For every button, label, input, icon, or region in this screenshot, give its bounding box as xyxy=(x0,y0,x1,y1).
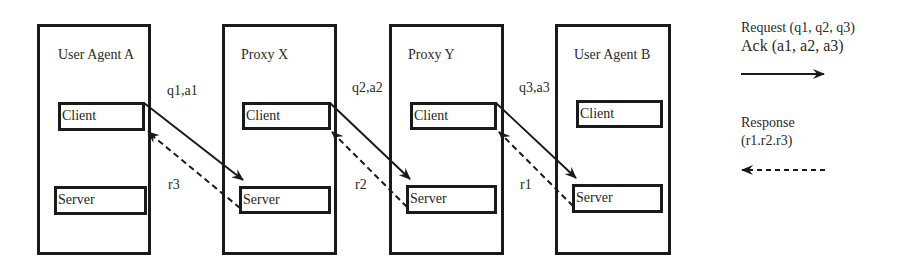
request-label-link-3: q3,a3 xyxy=(519,80,550,96)
entity-title: User Agent A xyxy=(58,47,148,63)
sip-proxy-diagram: User Agent A Client Server Proxy X Clien… xyxy=(0,0,906,260)
server-box-proxy-x: Server xyxy=(239,186,331,214)
server-box-user-agent-a: Server xyxy=(54,186,147,215)
entity-proxy-x: Proxy X xyxy=(222,24,337,255)
response-label-link-1: r3 xyxy=(168,177,180,193)
entity-user-agent-b: User Agent B xyxy=(555,24,671,255)
client-box-proxy-y: Client xyxy=(410,102,497,130)
server-box-user-agent-b: Server xyxy=(572,184,663,213)
client-box-proxy-x: Client xyxy=(242,102,331,130)
entity-user-agent-a: User Agent A xyxy=(37,24,151,255)
entity-title: Proxy X xyxy=(241,47,334,63)
response-label-link-2: r2 xyxy=(355,177,367,193)
entity-title: Proxy Y xyxy=(408,47,501,63)
legend-response-line1: Response xyxy=(741,115,795,131)
server-box-proxy-y: Server xyxy=(406,185,497,214)
client-box-user-agent-b: Client xyxy=(576,100,663,128)
legend-request-line1: Request (q1, q2, q3) xyxy=(741,20,855,36)
legend-response-line2: (r1.r2.r3) xyxy=(741,133,792,149)
entity-title: User Agent B xyxy=(574,47,668,63)
client-box-user-agent-a: Client xyxy=(58,102,145,131)
legend-request-line2: Ack (a1, a2, a3) xyxy=(741,37,844,55)
response-label-link-3: r1 xyxy=(520,177,532,193)
request-label-link-2: q2,a2 xyxy=(352,80,383,96)
request-label-link-1: q1,a1 xyxy=(167,83,198,99)
entity-proxy-y: Proxy Y xyxy=(389,24,504,255)
